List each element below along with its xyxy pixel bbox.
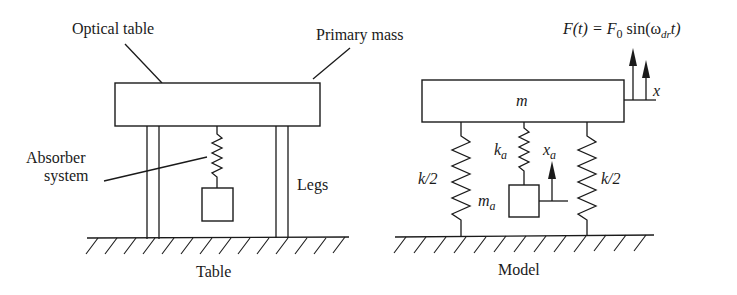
legs-label: Legs [297, 176, 328, 194]
absorber-spring-ka [519, 122, 529, 185]
table-leg-right [276, 126, 288, 238]
spring-left [452, 122, 470, 236]
ground-left [86, 237, 349, 254]
absorber-spring [212, 126, 222, 188]
optical-table-leader [125, 44, 162, 83]
absorber-label-line1: Absorber [26, 149, 86, 166]
table-leg-left [147, 126, 159, 239]
ground-right [394, 235, 654, 253]
absorber-displacement-label: xa [542, 141, 556, 162]
optical-table-label: Optical table [72, 20, 154, 38]
table-panel: Optical table Primary mass Absorber syst… [26, 20, 404, 280]
absorber-mass [202, 188, 233, 221]
force-arrow-icon [629, 48, 637, 66]
primary-displacement-label: x [652, 82, 660, 99]
spring-right [578, 122, 596, 236]
absorber-mass-label: ma [478, 192, 496, 213]
model-panel: F(t) = F0 sin(ωdrt) m x k/2 k/2 ka ma xa [394, 20, 681, 278]
absorber-displacement-arrow-icon [548, 161, 556, 179]
force-equation: F(t) = F0 sin(ωdrt) [562, 20, 681, 41]
absorber-mass-block [509, 185, 539, 217]
primary-mass-symbol: m [516, 92, 528, 109]
model-caption: Model [498, 261, 540, 278]
table-caption: Table [196, 263, 231, 280]
absorber-leader [104, 157, 207, 181]
vibration-absorber-diagram: Optical table Primary mass Absorber syst… [0, 0, 737, 295]
spring-left-label: k/2 [418, 170, 438, 187]
absorber-spring-label: ka [494, 141, 507, 162]
optical-table-top [115, 83, 320, 126]
primary-mass-label: Primary mass [316, 26, 404, 44]
displacement-arrow-icon [642, 60, 650, 78]
spring-right-label: k/2 [601, 170, 621, 187]
absorber-label-line2: system [44, 167, 89, 185]
primary-mass-leader [313, 48, 350, 79]
